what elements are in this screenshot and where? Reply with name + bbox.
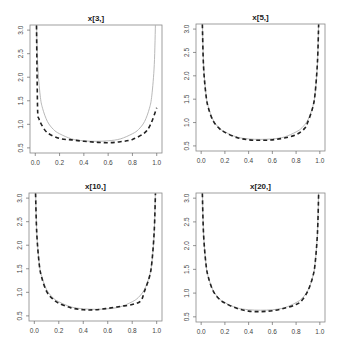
y-tick-label: 2.0 bbox=[17, 72, 24, 81]
chart-panel-2: x[5,]0.00.20.40.60.81.00.51.01.52.02.53.… bbox=[183, 13, 325, 164]
x-tick-label: 0.0 bbox=[31, 159, 40, 166]
y-tick-label: 3.0 bbox=[16, 193, 23, 202]
y-tick-label: 2.0 bbox=[16, 240, 23, 249]
chart-panel-1: x[3,]0.00.20.40.60.81.00.51.01.52.02.53.… bbox=[17, 14, 162, 166]
x-tick-label: 0.8 bbox=[128, 159, 137, 166]
estimate-dashed-line bbox=[36, 193, 156, 310]
x-tick-label: 1.0 bbox=[152, 327, 161, 334]
y-tick-label: 1.5 bbox=[183, 264, 190, 273]
plot-frame bbox=[29, 193, 162, 321]
y-tick-label: 3.0 bbox=[183, 193, 190, 202]
panel-title: x[10,] bbox=[85, 182, 106, 191]
y-tick-label: 1.0 bbox=[17, 119, 24, 128]
x-tick-label: 0.2 bbox=[55, 159, 64, 166]
y-tick-label: 2.5 bbox=[17, 49, 24, 58]
y-tick-label: 1.5 bbox=[16, 264, 23, 273]
x-tick-label: 0.6 bbox=[268, 157, 277, 164]
y-tick-label: 1.0 bbox=[16, 287, 23, 296]
x-tick-label: 0.4 bbox=[79, 159, 88, 166]
y-tick-label: 3.0 bbox=[17, 25, 24, 34]
x-tick-label: 0.4 bbox=[79, 327, 88, 334]
y-tick-label: 0.5 bbox=[183, 141, 190, 150]
panel-title: x[20,] bbox=[250, 182, 271, 191]
y-tick-label: 0.5 bbox=[183, 312, 190, 321]
y-tick-label: 0.5 bbox=[17, 143, 24, 152]
estimate-dashed-line bbox=[36, 25, 156, 142]
plot-frame bbox=[196, 193, 325, 322]
x-tick-label: 0.2 bbox=[54, 327, 63, 334]
x-tick-label: 0.8 bbox=[292, 157, 301, 164]
panel-title: x[5,] bbox=[252, 13, 269, 22]
x-tick-label: 0.6 bbox=[103, 327, 112, 334]
x-tick-label: 0.6 bbox=[268, 328, 277, 335]
x-tick-label: 1.0 bbox=[152, 159, 161, 166]
y-tick-label: 2.0 bbox=[183, 241, 190, 250]
x-tick-label: 0.8 bbox=[292, 328, 301, 335]
x-tick-label: 0.0 bbox=[197, 157, 206, 164]
y-tick-label: 2.5 bbox=[16, 217, 23, 226]
y-tick-label: 2.0 bbox=[183, 71, 190, 80]
x-tick-label: 0.0 bbox=[30, 327, 39, 334]
chart-grid: x[3,]0.00.20.40.60.81.00.51.01.52.02.53.… bbox=[0, 0, 339, 353]
y-tick-label: 2.5 bbox=[183, 217, 190, 226]
true-density-line bbox=[36, 21, 155, 142]
y-tick-label: 1.5 bbox=[183, 94, 190, 103]
true-density-line bbox=[202, 20, 318, 140]
true-density-line bbox=[202, 189, 318, 311]
x-tick-label: 0.2 bbox=[220, 157, 229, 164]
x-tick-label: 1.0 bbox=[315, 157, 324, 164]
x-tick-label: 0.0 bbox=[197, 328, 206, 335]
x-tick-label: 0.6 bbox=[104, 159, 113, 166]
y-tick-label: 1.5 bbox=[17, 96, 24, 105]
y-tick-label: 1.0 bbox=[183, 288, 190, 297]
x-tick-label: 1.0 bbox=[315, 328, 324, 335]
y-tick-label: 1.0 bbox=[183, 118, 190, 127]
plot-frame bbox=[196, 24, 325, 151]
x-tick-label: 0.2 bbox=[220, 328, 229, 335]
y-tick-label: 0.5 bbox=[16, 311, 23, 320]
y-tick-label: 3.0 bbox=[183, 24, 190, 33]
estimate-dashed-line bbox=[202, 24, 318, 140]
chart-panel-3: x[10,]0.00.20.40.60.81.00.51.01.52.02.53… bbox=[16, 182, 162, 334]
x-tick-label: 0.8 bbox=[128, 327, 137, 334]
x-tick-label: 0.4 bbox=[244, 328, 253, 335]
y-tick-label: 2.5 bbox=[183, 48, 190, 57]
chart-panel-4: x[20,]0.00.20.40.60.81.00.51.01.52.02.53… bbox=[183, 182, 325, 335]
x-tick-label: 0.4 bbox=[244, 157, 253, 164]
true-density-line bbox=[36, 189, 156, 310]
estimate-dashed-line bbox=[202, 193, 318, 311]
panel-title: x[3,] bbox=[88, 14, 105, 23]
